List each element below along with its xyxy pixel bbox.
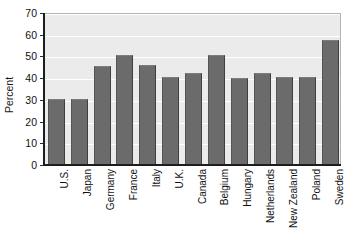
bar [71, 99, 88, 164]
y-axis-tick-labels: 010203040506070 [0, 0, 44, 244]
x-category-label: Germany [105, 166, 116, 210]
y-tick-label: 10 [25, 137, 37, 149]
x-category-label: Belgium [219, 166, 230, 205]
x-category-label: New Zealand [288, 166, 299, 228]
x-category-label: Sweden [334, 166, 345, 205]
y-tick-label: 70 [25, 7, 37, 19]
y-tick-label: 40 [25, 72, 37, 84]
bar [299, 77, 316, 164]
x-category-label: Japan [82, 166, 93, 196]
x-category-label: Poland [311, 166, 322, 200]
y-tick-label: 0 [31, 159, 37, 171]
x-category-label: Canada [197, 166, 208, 204]
bar [94, 66, 111, 164]
x-category-label: Italy [151, 166, 162, 187]
bar [208, 55, 225, 164]
bar-chart: Percent 010203040506070 U.S.JapanGermany… [0, 0, 362, 244]
y-axis-line [43, 13, 45, 166]
x-category-label: France [128, 166, 139, 200]
bar [162, 77, 179, 164]
x-category-label: U.K. [174, 166, 185, 188]
x-category-label: Hungary [242, 166, 253, 207]
y-tick-label: 30 [25, 94, 37, 106]
x-axis-category-labels: U.S.JapanGermanyFranceItalyU.K.CanadaBel… [44, 166, 341, 244]
y-tick-label: 50 [25, 50, 37, 62]
y-tick-label: 60 [25, 29, 37, 41]
bar [139, 65, 156, 164]
y-tick-label: 20 [25, 116, 37, 128]
bar [231, 78, 248, 164]
bar [254, 73, 271, 164]
bar [276, 77, 293, 164]
plot-area [44, 13, 341, 165]
x-category-label: Netherlands [265, 166, 276, 223]
bar-series [45, 14, 340, 164]
bar [322, 40, 339, 164]
x-category-label: U.S. [59, 166, 70, 188]
bar [48, 99, 65, 164]
bar [116, 55, 133, 164]
bar [185, 73, 202, 164]
